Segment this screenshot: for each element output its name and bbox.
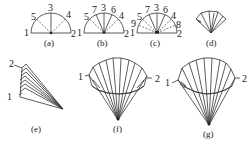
caption-f: (f) — [113, 124, 122, 134]
label-2: 2 — [155, 73, 160, 84]
label-1: 1 — [165, 77, 170, 88]
label-5: 5 — [31, 11, 36, 22]
label-1: 1 — [77, 27, 82, 38]
label-3: 3 — [48, 2, 53, 13]
label-7: 7 — [92, 4, 97, 15]
label-3: 3 — [101, 2, 106, 13]
caption-d: (d) — [206, 38, 217, 48]
label-6: 6 — [111, 4, 116, 15]
label-5: 5 — [137, 11, 142, 22]
label-2: 2 — [177, 28, 182, 39]
label-2: 2 — [242, 73, 247, 84]
label-4: 4 — [119, 10, 124, 21]
panel-f: 1 2 (f) — [78, 58, 160, 134]
caption-c: (c) — [150, 38, 160, 48]
caption-e: (e) — [31, 124, 41, 134]
label-1: 1 — [7, 91, 12, 102]
label-2: 2 — [71, 28, 76, 39]
panel-a: 1 5 3 4 2 (a) — [24, 2, 76, 48]
panel-b: 1 5 7 3 6 4 2 (b) — [77, 2, 129, 48]
panel-g: 1 2 (g) — [165, 58, 247, 139]
caption-b: (b) — [97, 38, 108, 48]
label-1: 1 — [78, 71, 83, 82]
label-6: 6 — [163, 4, 168, 15]
label-2: 2 — [9, 58, 14, 69]
label-4: 4 — [66, 9, 71, 20]
label-9: 9 — [131, 18, 136, 29]
panel-c: 1 9 5 7 3 6 4 8 2 (c) — [130, 2, 182, 48]
folding-diagram: 1 5 3 4 2 (a) 1 5 7 3 6 4 2 (b) 1 9 — [0, 0, 251, 141]
label-7: 7 — [145, 4, 150, 15]
label-2: 2 — [124, 28, 129, 39]
caption-a: (a) — [44, 38, 54, 48]
panel-e: 2 1 (e) — [7, 58, 63, 134]
label-3: 3 — [154, 2, 159, 13]
panel-d: (d) — [196, 11, 226, 48]
label-5: 5 — [84, 11, 89, 22]
caption-g: (g) — [203, 129, 214, 139]
label-1: 1 — [24, 27, 29, 38]
